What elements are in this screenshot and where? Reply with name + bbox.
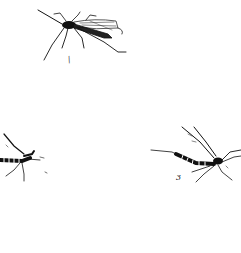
insect-left bbox=[0, 134, 47, 181]
insect-right bbox=[151, 127, 241, 182]
insect-illustration bbox=[0, 0, 241, 253]
figure-label-3: 3 bbox=[176, 174, 181, 182]
insect-top bbox=[38, 10, 126, 60]
